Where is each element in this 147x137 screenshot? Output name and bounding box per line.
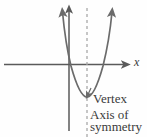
parabola-right-branch bbox=[87, 12, 112, 97]
parabola-left-branch bbox=[63, 12, 88, 97]
parabola-figure: x Vertex Axis of symmetry bbox=[0, 0, 147, 137]
vertex-label: Vertex bbox=[93, 92, 127, 105]
axis-of-symmetry-label-line2: symmetry bbox=[90, 120, 142, 133]
x-axis-label: x bbox=[134, 56, 139, 68]
